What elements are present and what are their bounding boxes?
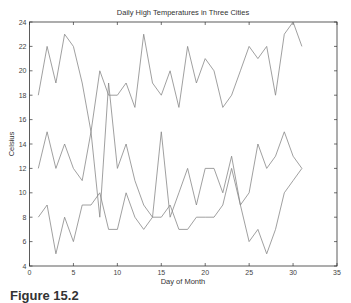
y-tick-label: 20	[19, 67, 27, 74]
y-tick-label: 24	[19, 19, 27, 26]
series-line-2	[38, 83, 302, 254]
y-axis: 4681012141618202224	[19, 19, 337, 270]
x-tick-label: 30	[289, 269, 297, 276]
y-tick-label: 16	[19, 116, 27, 123]
x-tick-label: 25	[245, 269, 253, 276]
x-tick-label: 35	[333, 269, 341, 276]
series-line-3	[38, 132, 302, 254]
x-tick-label: 15	[157, 269, 165, 276]
x-tick-label: 20	[201, 269, 209, 276]
figure-caption: Figure 15.2	[10, 288, 79, 303]
series-line-1	[38, 22, 302, 132]
y-tick-label: 14	[19, 141, 27, 148]
chart-title: Daily High Temperatures in Three Cities	[117, 8, 250, 17]
x-tick-label: 0	[28, 269, 32, 276]
y-tick-label: 4	[23, 263, 27, 270]
series-lines	[38, 22, 302, 254]
y-axis-label: Celsius	[7, 131, 16, 156]
x-axis-label: Day of Month	[161, 277, 206, 286]
y-tick-label: 18	[19, 92, 27, 99]
y-tick-label: 8	[23, 214, 27, 221]
y-tick-label: 22	[19, 43, 27, 50]
y-tick-label: 10	[19, 189, 27, 196]
y-tick-label: 6	[23, 238, 27, 245]
y-tick-label: 12	[19, 165, 27, 172]
x-tick-label: 5	[71, 269, 75, 276]
x-tick-label: 10	[113, 269, 121, 276]
